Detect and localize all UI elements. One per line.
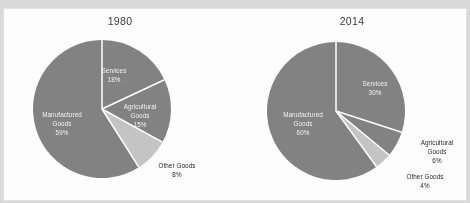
pie-label-other-1980-name: Other Goods [158, 162, 195, 169]
pie-label-services-1980-name: Services [102, 67, 127, 74]
pie-label-agricultural-2014: Agricultural Goods 6% [406, 138, 468, 165]
chart-panel-1980: 1980 [4, 9, 236, 202]
pie-label-services-2014-pct: 30% [348, 88, 402, 97]
pie-label-agricultural-2014-name2: Goods [406, 147, 468, 156]
pie-label-services-2014: Services 30% [348, 79, 402, 97]
pie-label-other-2014-pct: 4% [392, 181, 458, 190]
pie-label-services-1980: Services 18% [88, 66, 140, 84]
pie-label-other-1980-pct: 8% [146, 170, 208, 179]
pie-label-agricultural-1980-name1: Agricultural [124, 103, 157, 110]
pie-chart-figure: 1980 [0, 0, 470, 203]
pie-label-agricultural-2014-pct: 6% [406, 156, 468, 165]
pie-label-manufactured-1980: Manufactured Goods 59% [30, 110, 94, 137]
pie-label-manufactured-2014-pct: 60% [270, 128, 336, 137]
chart-panel-2014: 2014 [236, 9, 468, 202]
pie-label-manufactured-2014: Manufactured Goods 60% [270, 110, 336, 137]
pie-label-manufactured-1980-name1: Manufactured [42, 111, 82, 118]
pie-label-agricultural-1980-name2: Goods [112, 111, 168, 120]
chart-title-2014: 2014 [236, 15, 468, 27]
pie-label-manufactured-1980-name2: Goods [30, 119, 94, 128]
figure-sheet: 1980 [3, 8, 467, 201]
pie-label-agricultural-2014-name1: Agricultural [421, 139, 454, 146]
pie-label-agricultural-1980-pct: 15% [112, 120, 168, 129]
pie-label-services-2014-name: Services [363, 80, 388, 87]
pie-label-other-2014: Other Goods 4% [392, 172, 458, 190]
pie-label-agricultural-1980: Agricultural Goods 15% [112, 102, 168, 129]
chart-title-1980: 1980 [4, 15, 236, 27]
pie-label-other-1980: Other Goods 8% [146, 161, 208, 179]
pie-label-manufactured-2014-name1: Manufactured [283, 111, 323, 118]
pie-label-services-1980-pct: 18% [88, 75, 140, 84]
pie-label-manufactured-2014-name2: Goods [270, 119, 336, 128]
pie-label-other-2014-name: Other Goods [406, 173, 443, 180]
pie-label-manufactured-1980-pct: 59% [30, 128, 94, 137]
